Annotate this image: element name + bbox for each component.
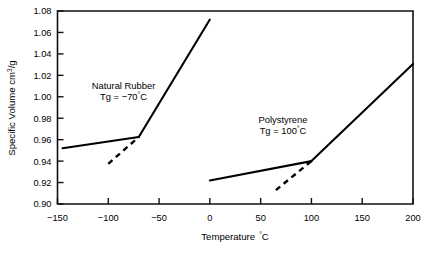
chart-container: −150−100−50050100150200 0.900.920.940.96… xyxy=(0,0,428,253)
y-tick-label-5: 1.00 xyxy=(33,92,51,102)
annotation-polystyrene-line1: Polystyrene xyxy=(258,114,307,125)
y-tick-label-6: 1.02 xyxy=(33,71,51,81)
annotation-natural-rubber: Natural RubberTg = −70°C xyxy=(92,80,156,103)
x-tick-label-5: 100 xyxy=(304,213,320,223)
specific-volume-vs-temperature-chart: −150−100−50050100150200 0.900.920.940.96… xyxy=(0,0,428,253)
x-tick-label-3: 0 xyxy=(207,213,212,223)
x-tick-label-2: −50 xyxy=(151,213,167,223)
x-tick-label-4: 50 xyxy=(255,213,265,223)
y-tick-label-1: 0.92 xyxy=(33,178,51,188)
annotation-polystyrene: PolystyreneTg = 100°C xyxy=(258,114,307,137)
x-tick-label-7: 200 xyxy=(405,213,421,223)
x-tick-label-1: −100 xyxy=(98,213,119,223)
y-tick-label-9: 1.08 xyxy=(33,6,51,16)
y-axis-title: Specific Volume cm3/g xyxy=(6,60,17,155)
svg-text:Specific Volume cm3/g: Specific Volume cm3/g xyxy=(6,60,17,155)
y-tick-label-7: 1.04 xyxy=(33,49,51,59)
y-tick-label-8: 1.06 xyxy=(33,28,51,38)
y-tick-label-2: 0.94 xyxy=(33,157,51,167)
y-tick-label-4: 0.98 xyxy=(33,114,51,124)
annotation-natural-rubber-line2: Tg = −70°C xyxy=(100,91,147,102)
annotation-natural-rubber-line1: Natural Rubber xyxy=(92,80,156,91)
y-tick-label-0: 0.90 xyxy=(33,199,51,209)
y-tick-label-3: 0.96 xyxy=(33,135,51,145)
x-tick-label-0: −150 xyxy=(47,213,68,223)
x-tick-label-6: 150 xyxy=(354,213,370,223)
annotation-polystyrene-line2: Tg = 100°C xyxy=(260,125,307,136)
